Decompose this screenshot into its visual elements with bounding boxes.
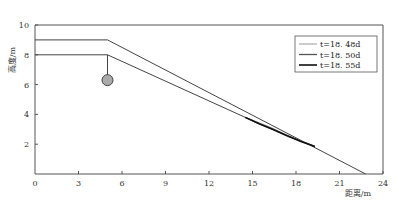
x-tick-label: 12: [204, 179, 214, 188]
y-tick-label: 2: [24, 140, 29, 149]
legend: t=18. 48dt=18. 50dt=18. 55d: [295, 36, 377, 72]
slip-surface-line: [35, 55, 245, 118]
y-tick-label: 10: [19, 21, 29, 30]
x-axis-title: 距离/m: [345, 188, 372, 198]
y-tick-label: 6: [24, 81, 29, 90]
x-tick-label: 24: [378, 179, 388, 188]
anchor-ball: [102, 75, 113, 86]
y-tick-label: 8: [24, 51, 29, 60]
legend-label-3: t=18. 55d: [320, 61, 360, 70]
x-tick-label: 6: [119, 179, 124, 188]
y-axis-title: 高度/m: [7, 46, 17, 73]
anchor: [102, 55, 113, 86]
x-tick-label: 0: [32, 179, 37, 188]
series-line-3: [245, 117, 315, 146]
series-lines: [245, 117, 315, 146]
x-tick-label: 15: [247, 179, 257, 188]
x-tick-label: 9: [163, 179, 168, 188]
x-tick-label: 18: [291, 179, 301, 188]
legend-label-2: t=18. 50d: [320, 51, 360, 60]
legend-label-1: t=18. 48d: [320, 40, 360, 49]
y-tick-label: 4: [24, 110, 29, 119]
x-tick-label: 3: [76, 179, 81, 188]
chart: 03691215182124246810 t=18. 48dt=18. 50dt…: [0, 0, 399, 215]
x-tick-label: 21: [334, 179, 344, 188]
